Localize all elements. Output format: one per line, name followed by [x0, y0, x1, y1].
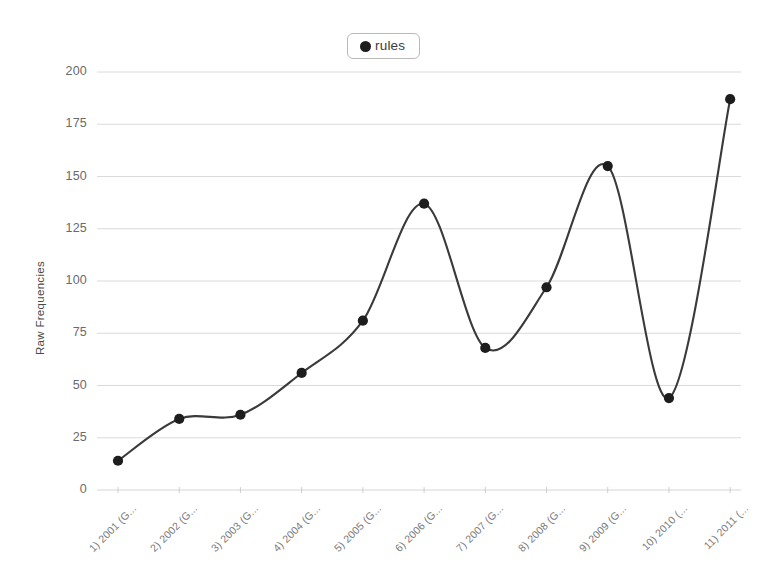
y-axis-tick-label: 25	[47, 430, 87, 444]
y-axis-tick-label: 125	[47, 221, 87, 235]
y-axis-tick-label: 50	[47, 378, 87, 392]
data-point[interactable]	[113, 456, 123, 466]
y-axis-tick-label: 150	[47, 169, 87, 183]
data-point[interactable]	[480, 343, 490, 353]
chart-container: rules Raw Frequencies 200175150125100755…	[0, 0, 779, 587]
data-point[interactable]	[174, 414, 184, 424]
y-axis-tick-label: 200	[47, 64, 87, 78]
y-axis-tick-label: 0	[47, 482, 87, 496]
data-point[interactable]	[235, 410, 245, 420]
data-point[interactable]	[419, 199, 429, 209]
y-axis-tick-label: 175	[47, 116, 87, 130]
data-point[interactable]	[297, 368, 307, 378]
plot-area	[0, 0, 779, 587]
y-axis-tick-label: 75	[47, 325, 87, 339]
series-line-rules	[118, 99, 730, 461]
data-point[interactable]	[541, 282, 551, 292]
data-point[interactable]	[664, 393, 674, 403]
data-point[interactable]	[358, 316, 368, 326]
data-point[interactable]	[603, 161, 613, 171]
gridlines	[97, 72, 741, 490]
series-markers-rules	[113, 94, 735, 466]
y-axis-tick-label: 100	[47, 273, 87, 287]
data-point[interactable]	[725, 94, 735, 104]
